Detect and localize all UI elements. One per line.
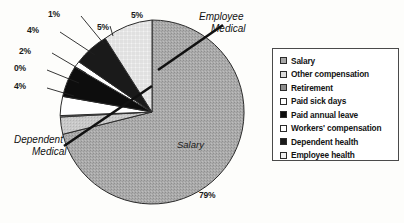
pie-plot-area: 4% 0% 2% 4% 1% 5% 5% 79% Employee Medica… (0, 0, 265, 223)
legend-item-dependent-health[interactable]: Dependent health (280, 135, 398, 148)
legend-item-paid-annual-leave[interactable]: Paid annual leave (280, 108, 398, 121)
callout-dependent-medical: Dependent Medical (14, 134, 66, 157)
percent-label-paid-sick-days: 2% (19, 46, 31, 56)
legend-swatch-dependent-health (280, 138, 287, 145)
legend-item-paid-sick-days[interactable]: Paid sick days (280, 95, 398, 108)
legend-label-retirement: Retirement (291, 83, 333, 93)
percent-label-salary: 79% (199, 190, 215, 200)
chart-legend: Salary Other compensation Retirement Pai… (272, 48, 399, 161)
percent-label-retirement: 0% (14, 63, 26, 73)
legend-item-employee-health[interactable]: Employee health (280, 149, 398, 162)
legend-label-paid-annual-leave: Paid annual leave (291, 110, 358, 120)
callout-employee-medical: Employee Medical (199, 11, 245, 34)
legend-swatch-other-compensation (280, 71, 287, 78)
legend-item-salary[interactable]: Salary (280, 54, 398, 67)
legend-label-salary: Salary (291, 56, 315, 66)
percent-label-employee-health: 5% (131, 10, 143, 20)
percent-label-other-compensation: 4% (14, 81, 26, 91)
legend-swatch-salary (280, 57, 287, 64)
callout-employee-medical-line1: Employee (199, 11, 245, 23)
legend-label-workers-compensation: Workers' compensation (291, 123, 381, 133)
slice-name-salary: Salary (177, 139, 204, 150)
pie-chart-figure: 4% 0% 2% 4% 1% 5% 5% 79% Employee Medica… (0, 0, 404, 223)
legend-swatch-employee-health (280, 152, 287, 159)
legend-label-employee-health: Employee health (291, 150, 355, 160)
legend-label-other-compensation: Other compensation (291, 69, 369, 79)
callout-dependent-medical-line1: Dependent (14, 134, 66, 146)
percent-label-workers-compensation: 1% (48, 9, 60, 19)
legend-label-paid-sick-days: Paid sick days (291, 96, 346, 106)
legend-label-dependent-health: Dependent health (291, 137, 358, 147)
callout-employee-medical-line2: Medical (211, 23, 245, 35)
legend-swatch-workers-compensation (280, 125, 287, 132)
legend-swatch-paid-sick-days (280, 98, 287, 105)
legend-item-workers-compensation[interactable]: Workers' compensation (280, 122, 398, 135)
callout-dependent-medical-line2: Medical (32, 146, 66, 158)
legend-swatch-paid-annual-leave (280, 111, 287, 118)
legend-swatch-retirement (280, 84, 287, 91)
percent-label-dependent-health: 5% (97, 22, 109, 32)
legend-item-retirement[interactable]: Retirement (280, 81, 398, 94)
percent-label-paid-annual-leave: 4% (27, 25, 39, 35)
legend-item-other-compensation[interactable]: Other compensation (280, 68, 398, 81)
